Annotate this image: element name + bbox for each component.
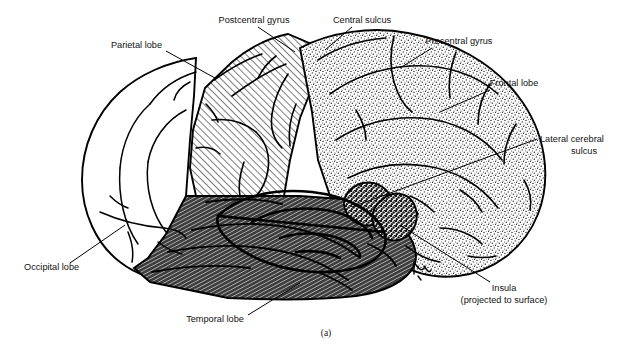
label-central-sulcus: Central sulcus [333,15,392,25]
label-lateral-cerebral-sulcus-line2: sulcus [571,146,597,156]
figure-caption: (a) [321,328,332,339]
label-postcentral-gyrus: Postcentral gyrus [219,15,290,25]
label-lateral-cerebral-sulcus-line1: Lateral cerebral [540,134,604,144]
brain-diagram-figure: Parietal lobe Postcentral gyrus Central … [0,0,631,357]
label-frontal-lobe: Frontal lobe [490,78,539,88]
label-insula-line1: Insula [492,283,517,293]
label-insula-line2: (projected to surface) [461,295,548,305]
label-temporal-lobe: Temporal lobe [186,314,244,324]
label-occipital-lobe: Occipital lobe [24,262,79,272]
label-precentral-gyrus: Precentral gyrus [426,36,493,46]
label-parietal-lobe: Parietal lobe [111,40,162,50]
brain-lateral-view-svg: Parietal lobe Postcentral gyrus Central … [0,0,631,357]
